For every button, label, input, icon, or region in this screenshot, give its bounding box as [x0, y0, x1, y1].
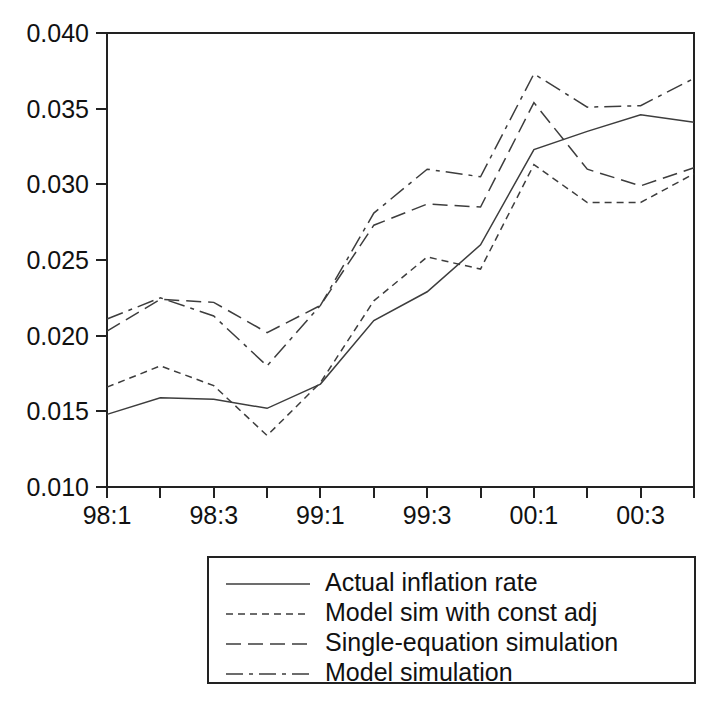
legend-label-3: Model simulation — [325, 658, 513, 686]
chart-legend: Actual inflation rateModel sim with cons… — [208, 557, 695, 686]
x-tick-label: 99:1 — [296, 501, 345, 529]
legend-label-1: Model sim with const adj — [325, 598, 597, 626]
x-tick-label: 00:3 — [616, 501, 665, 529]
x-tick-label: 98:3 — [189, 501, 238, 529]
legend-label-2: Single-equation simulation — [325, 628, 618, 656]
chart-figure: 0.0100.0150.0200.0250.0300.0350.040 98:1… — [0, 0, 719, 707]
y-tick-label: 0.010 — [26, 473, 89, 501]
y-tick-label: 0.035 — [26, 95, 89, 123]
y-tick-label: 0.025 — [26, 246, 89, 274]
y-tick-label: 0.040 — [26, 19, 89, 47]
legend-label-0: Actual inflation rate — [325, 568, 538, 596]
x-tick-label: 00:1 — [510, 501, 559, 529]
y-tick-label: 0.020 — [26, 322, 89, 350]
x-tick-label: 99:3 — [403, 501, 452, 529]
x-tick-label: 98:1 — [83, 501, 132, 529]
inflation-line-chart: 0.0100.0150.0200.0250.0300.0350.040 98:1… — [0, 0, 719, 707]
y-tick-label: 0.015 — [26, 397, 89, 425]
y-tick-label: 0.030 — [26, 170, 89, 198]
